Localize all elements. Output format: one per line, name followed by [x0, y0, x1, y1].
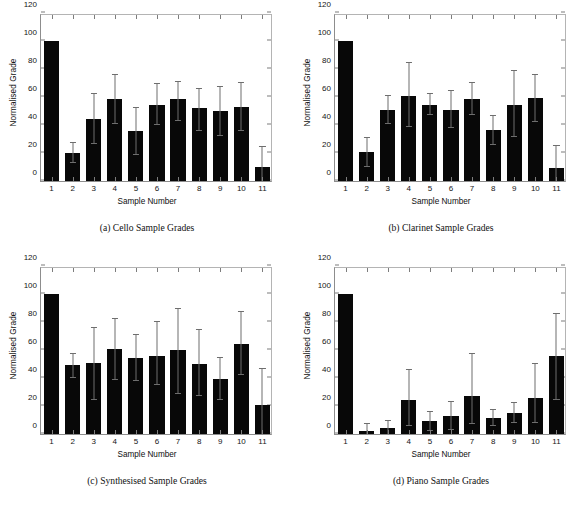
error-bar-cap-bottom: [511, 136, 517, 137]
y-tick-label: 80: [28, 56, 41, 65]
error-bar-line: [262, 369, 263, 434]
x-tick-label: 6: [155, 434, 159, 446]
x-tick-label: 10: [237, 181, 246, 193]
x-tick-label: 2: [364, 434, 368, 446]
error-bar-cap-bottom: [238, 130, 244, 131]
error-bar-cap-bottom: [133, 154, 139, 155]
x-tick-mark-top: [409, 15, 410, 19]
error-bar-cap-top: [469, 353, 475, 354]
panel-caption: (c) Synthesised Sample Grades: [0, 475, 294, 486]
x-axis-label: Sample Number: [0, 197, 294, 206]
error-bar-cap-bottom: [364, 166, 370, 167]
x-tick-mark-top: [367, 15, 368, 19]
axes-frame: 0204060801001201234567891011: [334, 267, 566, 435]
error-bar-cap-bottom: [490, 144, 496, 145]
y-tick-label: 40: [28, 365, 41, 374]
x-tick-label: 3: [385, 434, 389, 446]
x-tick-label: 9: [512, 434, 516, 446]
x-tick-mark-top: [493, 15, 494, 19]
x-tick-mark-top: [262, 15, 263, 19]
error-bar-line: [114, 319, 115, 380]
y-tick-mark: [41, 265, 45, 266]
axes-frame: 0204060801001201234567891011: [334, 14, 566, 182]
error-bar-cap-bottom: [175, 120, 181, 121]
x-tick-label: 1: [343, 434, 347, 446]
error-bar-cap-bottom: [154, 124, 160, 125]
axes-frame: 0204060801001201234567891011: [40, 14, 272, 182]
error-bar-cap-top: [238, 82, 244, 83]
y-tick-mark-right: [267, 96, 271, 97]
x-tick-mark-top: [241, 268, 242, 272]
error-bar-cap-bottom: [238, 374, 244, 375]
error-bar-line: [451, 91, 452, 128]
y-tick-label: 20: [28, 393, 41, 402]
y-tick-label: 0: [33, 168, 41, 177]
x-tick-label: 4: [113, 181, 117, 193]
bar: [44, 41, 59, 181]
chart-panel-cello: Normalised Grade020406080100120123456789…: [0, 0, 294, 253]
x-tick-label: 11: [552, 434, 560, 446]
error-bar-cap-bottom: [469, 423, 475, 424]
error-bar-line: [514, 71, 515, 137]
error-bar-cap-top: [154, 83, 160, 84]
error-bar-cap-bottom: [490, 425, 496, 426]
error-bar-cap-top: [427, 411, 433, 412]
error-bar-line: [408, 370, 409, 425]
x-tick-mark-top: [115, 15, 116, 19]
x-tick-label: 8: [491, 434, 495, 446]
error-bar-cap-top: [364, 137, 370, 138]
error-bar-cap-top: [259, 368, 265, 369]
x-tick-mark-top: [367, 268, 368, 272]
x-tick-mark-top: [157, 268, 158, 272]
y-tick-label: 100: [318, 281, 335, 290]
x-tick-mark-top: [409, 268, 410, 272]
bar: [44, 294, 59, 434]
error-bar-cap-top: [406, 369, 412, 370]
error-bar-line: [429, 412, 430, 430]
error-bar-cap-top: [70, 353, 76, 354]
error-bar-cap-top: [133, 334, 139, 335]
y-tick-mark: [335, 265, 339, 266]
error-bar-cap-bottom: [154, 384, 160, 385]
error-bar-line: [220, 87, 221, 137]
error-bar-line: [556, 314, 557, 399]
x-tick-mark-top: [472, 268, 473, 272]
error-bar-cap-top: [553, 145, 559, 146]
y-tick-mark-right: [561, 68, 565, 69]
error-bar-cap-top: [532, 74, 538, 75]
x-tick-mark-top: [52, 268, 53, 272]
error-bar-cap-bottom: [532, 121, 538, 122]
error-bar-cap-top: [217, 86, 223, 87]
error-bar-cap-bottom: [448, 127, 454, 128]
x-axis-label: Sample Number: [294, 450, 588, 459]
error-bar-line: [493, 116, 494, 145]
panel-caption: (d) Piano Sample Grades: [294, 475, 588, 486]
x-tick-label: 4: [113, 434, 117, 446]
plot-area-clarinet: Normalised Grade020406080100120123456789…: [294, 0, 588, 215]
x-tick-mark-top: [178, 268, 179, 272]
x-tick-label: 7: [470, 181, 474, 193]
error-bar-cap-bottom: [406, 425, 412, 426]
plot-area-piano: Normalised Grade020406080100120123456789…: [294, 253, 588, 468]
error-bar-cap-top: [511, 402, 517, 403]
x-tick-label: 1: [343, 181, 347, 193]
x-tick-label: 6: [155, 181, 159, 193]
x-tick-mark-top: [472, 15, 473, 19]
x-tick-label: 11: [258, 181, 266, 193]
error-bar-line: [493, 410, 494, 426]
error-bar-cap-top: [532, 363, 538, 364]
y-tick-mark-right: [267, 12, 271, 13]
y-tick-label: 120: [318, 253, 335, 262]
error-bar-line: [535, 75, 536, 123]
x-tick-mark-top: [262, 268, 263, 272]
error-bar-line: [262, 147, 263, 181]
x-tick-label: 6: [449, 434, 453, 446]
y-tick-mark-right: [267, 68, 271, 69]
y-tick-label: 120: [318, 0, 335, 9]
y-tick-mark-right: [267, 265, 271, 266]
x-tick-mark-top: [430, 15, 431, 19]
error-bar-cap-top: [364, 423, 370, 424]
error-bar-cap-bottom: [91, 143, 97, 144]
x-tick-mark-top: [241, 15, 242, 19]
x-tick-mark-top: [199, 15, 200, 19]
